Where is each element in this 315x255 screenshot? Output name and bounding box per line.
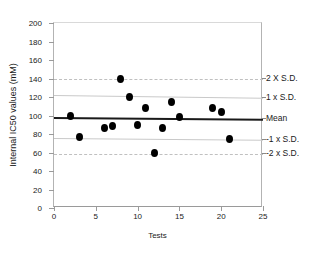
y-axis-tick: 140: [49, 79, 54, 80]
data-point: [151, 149, 158, 157]
reference-line-mean: [54, 117, 263, 121]
x-axis-tick: [138, 206, 139, 211]
data-point: [134, 121, 141, 129]
x-axis-tick: [263, 206, 264, 211]
y-axis-tick: 120: [49, 97, 54, 98]
y-axis-tick: 100: [49, 116, 54, 117]
data-point: [142, 104, 149, 112]
x-axis-tick: [179, 206, 180, 211]
data-point: [101, 124, 108, 132]
data-point: [126, 93, 133, 101]
x-axis-tick: [221, 206, 222, 211]
y-axis-title-text: Internal IC50 values (mM): [8, 63, 18, 167]
y-axis-tick: 20: [49, 190, 54, 191]
y-axis-tick-label: 80: [33, 131, 42, 139]
data-point: [76, 133, 83, 141]
y-axis-tick: 60: [49, 153, 54, 154]
sd-label-mean: Mean: [266, 114, 287, 123]
y-axis-tick-label: 20: [33, 187, 42, 195]
x-axis-tick-label: 5: [94, 213, 98, 221]
y-axis-tick-label: 200: [29, 20, 42, 28]
y-axis-tick: 80: [49, 134, 54, 135]
y-axis-tick-label: 0: [38, 205, 42, 213]
x-axis-tick-label: 15: [175, 213, 184, 221]
data-point: [209, 104, 216, 112]
x-axis-tick-label: 10: [133, 213, 142, 221]
x-axis-tick-label: 25: [259, 213, 268, 221]
data-point: [218, 108, 225, 116]
y-axis-tick-label: 120: [29, 94, 42, 102]
sd-label-plus2sd: 2 X S.D.: [266, 74, 298, 83]
sd-label-minus1sd: -1 x S.D.: [266, 134, 299, 143]
data-point: [109, 122, 116, 130]
reference-line-plus1sd: [54, 95, 263, 99]
data-point: [67, 112, 74, 120]
x-axis-tick: [54, 206, 55, 211]
x-axis-title: Tests: [53, 231, 262, 240]
y-axis-tick-label: 140: [29, 76, 42, 84]
data-point: [168, 98, 175, 106]
y-axis-tick-label: 100: [29, 113, 42, 121]
x-axis-tick-label: 20: [217, 213, 226, 221]
x-axis-tick-label: 0: [52, 213, 56, 221]
y-axis-tick: 200: [49, 23, 54, 24]
data-point: [176, 113, 183, 121]
scatter-chart: Internal IC50 values (mM) 02040608010012…: [0, 0, 315, 255]
reference-line-minus2sd: [54, 154, 263, 155]
y-axis-tick-label: 60: [33, 150, 42, 158]
y-axis-tick-label: 180: [29, 39, 42, 47]
reference-line-plus2sd: [54, 79, 263, 80]
data-point: [159, 124, 166, 132]
plot-area: 020406080100120140160180200 0510152025: [53, 22, 262, 207]
y-axis-title: Internal IC50 values (mM): [6, 22, 20, 207]
x-axis-tick: [96, 206, 97, 211]
data-point: [226, 135, 233, 143]
sd-label-plus1sd: 1 x S.D.: [266, 92, 296, 101]
sd-label-minus2sd: -2 x S.D.: [266, 149, 299, 158]
y-axis-tick-label: 40: [33, 168, 42, 176]
data-point: [117, 75, 124, 83]
y-axis-tick: 160: [49, 60, 54, 61]
y-axis-tick-label: 160: [29, 57, 42, 65]
y-axis-tick: 180: [49, 42, 54, 43]
y-axis-tick: 40: [49, 171, 54, 172]
